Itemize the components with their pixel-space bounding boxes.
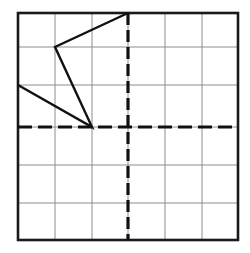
coordinate-grid-figure (0, 0, 250, 253)
figure-container (0, 0, 250, 253)
